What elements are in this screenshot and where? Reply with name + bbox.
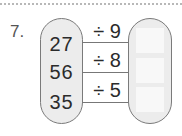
input-capsule: 27 56 35 (40, 18, 83, 124)
answer-box[interactable] (136, 58, 164, 83)
right-arrow-icon (82, 72, 133, 73)
right-arrow-icon (82, 42, 133, 43)
input-value: 35 (41, 91, 82, 114)
dotted-divider (0, 3, 182, 5)
operation-label: ÷ 5 (84, 79, 130, 102)
input-value: 27 (41, 33, 82, 56)
answer-capsule (128, 18, 172, 124)
answer-box[interactable] (136, 28, 164, 53)
input-value: 56 (41, 61, 82, 84)
question-number: 7. (10, 22, 24, 42)
operation-label: ÷ 8 (84, 49, 130, 72)
right-arrow-icon (82, 102, 133, 103)
answer-box[interactable] (136, 87, 164, 112)
operation-label: ÷ 9 (84, 20, 130, 43)
